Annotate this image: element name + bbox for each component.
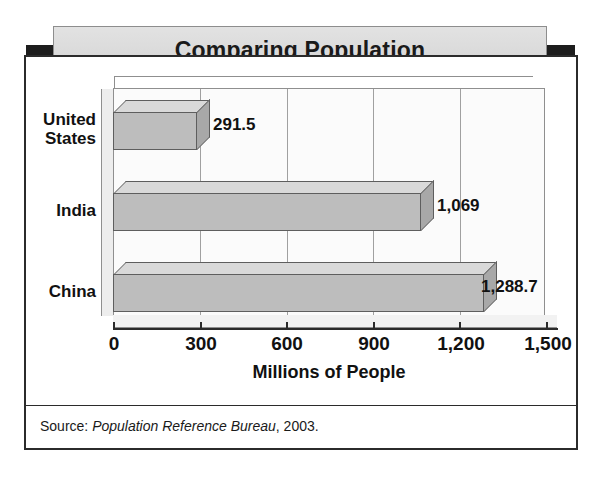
category-label-india: India	[56, 201, 96, 220]
bar-india[interactable]	[113, 181, 421, 219]
x-tick-label-300: 300	[185, 333, 217, 355]
x-tick-0	[113, 322, 115, 329]
x-tick-label-1500: 1,500	[524, 333, 572, 355]
x-tick-900	[373, 322, 375, 329]
category-label-line1: China	[49, 282, 96, 301]
x-tick-600	[286, 322, 288, 329]
plot-back-top-wall	[101, 76, 533, 88]
value-label-china: 1,288.7	[481, 277, 538, 297]
x-tick-label-900: 900	[358, 333, 390, 355]
bar-china[interactable]	[113, 262, 484, 300]
bar-front-face	[113, 274, 484, 312]
source-note: Source: Population Reference Bureau, 200…	[40, 418, 319, 434]
x-axis-title: Millions of People	[113, 362, 545, 383]
value-label-united-states: 291.5	[213, 115, 256, 135]
category-label-line1: India	[56, 201, 96, 220]
source-prefix: Source:	[40, 418, 92, 434]
source-divider	[26, 405, 576, 406]
population-chart-figure: Comparing Population	[0, 0, 601, 479]
bar-front-face	[113, 193, 421, 231]
x-tick-300	[200, 322, 202, 329]
x-tick-label-0: 0	[109, 333, 120, 355]
x-tick-label-600: 600	[271, 333, 303, 355]
bar-front-face	[113, 112, 197, 150]
category-label-china: China	[49, 282, 96, 301]
category-label-line2: States	[43, 129, 96, 148]
source-publication: Population Reference Bureau	[92, 418, 276, 434]
plot-floor	[113, 315, 557, 328]
category-label-line1: United	[43, 110, 96, 129]
x-tick-1500	[546, 322, 548, 329]
bar-united-states[interactable]	[113, 100, 197, 138]
x-axis-line	[113, 328, 558, 330]
source-suffix: , 2003.	[276, 418, 319, 434]
category-label-united-states: United States	[43, 110, 96, 148]
x-tick-label-1200: 1,200	[437, 333, 485, 355]
x-tick-1200	[459, 322, 461, 329]
value-label-india: 1,069	[437, 196, 480, 216]
